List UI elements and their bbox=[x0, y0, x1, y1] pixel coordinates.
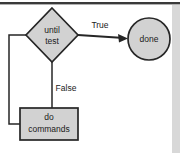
process-label-line1: do bbox=[44, 112, 54, 122]
top-divider bbox=[0, 2, 180, 4]
node-process[interactable]: do commands bbox=[20, 108, 78, 140]
edge-true-branch bbox=[78, 34, 128, 43]
decision-label-line1: until bbox=[44, 25, 60, 35]
node-decision[interactable]: until test bbox=[26, 8, 78, 62]
node-terminal[interactable]: done bbox=[128, 18, 170, 60]
true-branch-arrowhead bbox=[118, 34, 128, 43]
flowchart-canvas: until test done do commands True False bbox=[0, 0, 180, 153]
right-edge-strip bbox=[172, 5, 180, 153]
decision-label-line2: test bbox=[45, 36, 59, 46]
true-branch-label: True bbox=[91, 20, 108, 30]
false-branch-label: False bbox=[56, 83, 77, 93]
true-branch-line bbox=[78, 35, 124, 38]
terminal-label: done bbox=[140, 34, 159, 44]
flowchart-svg: until test done do commands True False bbox=[0, 0, 180, 153]
process-label-line2: commands bbox=[28, 124, 70, 134]
